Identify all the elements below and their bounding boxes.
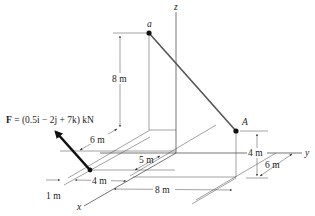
y-axis-label: y [304,148,310,158]
point-A [233,128,238,133]
point-a-label: a [147,19,152,29]
dim-5m-label: 5 m [139,155,154,165]
dim-8m-y-label: 8 m [155,185,170,195]
dim-4m-A-label: 4 m [248,148,263,158]
point-A-label: A [241,117,248,127]
dim-1m-label: 1 m [46,191,61,201]
dim-6m-right-label: 6 m [265,160,280,170]
dim-4m-x-label: 4 m [92,176,107,186]
dim-6m-top-label: 6 m [90,135,105,145]
grid-line [68,130,150,178]
point-a [146,30,151,35]
grid-line [192,178,236,204]
cable-aA [149,33,236,131]
z-axis-label: z [173,2,178,12]
grid-line [130,125,216,176]
force-expression: = (0.5i − 2j + 7k) kN [12,115,94,126]
force-application-point [88,168,93,173]
dim-8m-label: 8 m [112,74,127,84]
x-axis-label: x [76,202,82,212]
statics-diagram: z y x a A 8 m 4 m 6 m 6 m 5 m 4 m [0,0,315,216]
force-label: F = (0.5i − 2j + 7k) kN [6,115,94,126]
